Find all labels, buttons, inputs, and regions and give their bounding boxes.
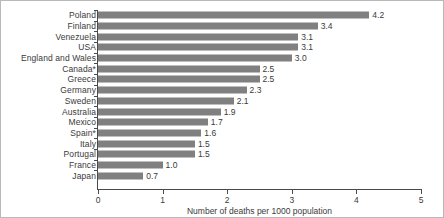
x-axis-tick xyxy=(356,190,357,194)
bar-row: Mexico1.7 xyxy=(1,117,444,128)
bar-track xyxy=(98,97,421,104)
bar xyxy=(98,12,369,19)
bar xyxy=(98,44,298,51)
x-axis-tick-label: 3 xyxy=(289,195,294,205)
bar-value-label: 1.7 xyxy=(208,117,223,127)
bar-track xyxy=(98,55,421,62)
bar-track xyxy=(98,129,421,136)
bar-row: Greece2.5 xyxy=(1,74,444,85)
bar-row: Germany2.3 xyxy=(1,85,444,96)
bar-value-label: 3.0 xyxy=(292,53,307,63)
bar-value-label: 3.4 xyxy=(318,21,333,31)
category-label: Japan xyxy=(72,171,96,181)
category-label: Canada* xyxy=(62,64,96,74)
bar xyxy=(98,172,143,179)
bar-row: Spain*1.6 xyxy=(1,128,444,139)
bar-row: Italy1.5 xyxy=(1,138,444,149)
category-label: Australia xyxy=(62,107,96,117)
category-label: Portugal xyxy=(64,149,96,159)
category-label: Sweden xyxy=(65,96,96,106)
bar-value-label: 1.6 xyxy=(201,128,216,138)
x-axis-title: Number of deaths per 1000 population xyxy=(98,206,421,216)
bar-row: Japan0.7 xyxy=(1,170,444,181)
category-label: Greece xyxy=(68,74,96,84)
bar-row: Sweden2.1 xyxy=(1,96,444,107)
bar xyxy=(98,161,163,168)
category-label: France xyxy=(69,160,96,170)
bar-value-label: 2.5 xyxy=(260,64,275,74)
x-axis-tick-label: 0 xyxy=(96,195,101,205)
y-axis-line xyxy=(97,10,98,189)
bar-value-label: 0.7 xyxy=(143,171,158,181)
category-label: Germany xyxy=(60,85,96,95)
bar-row: Canada*2.5 xyxy=(1,63,444,74)
category-label: Mexico xyxy=(68,117,96,127)
bar xyxy=(98,87,247,94)
bar xyxy=(98,140,195,147)
category-label: Spain* xyxy=(70,128,96,138)
bar-value-label: 3.1 xyxy=(298,32,313,42)
bar-row: England and Wales3.0 xyxy=(1,53,444,64)
bar-track xyxy=(98,151,421,158)
bar-track xyxy=(98,119,421,126)
plot-area: Poland4.2Finland3.4Venezuela3.1USA3.1Eng… xyxy=(1,1,444,218)
bar-value-label: 1.9 xyxy=(221,107,236,117)
x-axis-tick xyxy=(163,190,164,194)
bar-value-label: 2.5 xyxy=(260,74,275,84)
bar xyxy=(98,33,298,40)
bar-row: Portugal1.5 xyxy=(1,149,444,160)
x-axis-tick-label: 4 xyxy=(354,195,359,205)
bar xyxy=(98,129,201,136)
bar xyxy=(98,97,234,104)
bar-value-label: 1.5 xyxy=(195,139,210,149)
bar-value-label: 1.0 xyxy=(163,160,178,170)
bar-value-label: 2.1 xyxy=(234,96,249,106)
bar-row: Venezuela3.1 xyxy=(1,31,444,42)
bar xyxy=(98,151,195,158)
bar-value-label: 3.1 xyxy=(298,42,313,52)
bar-track xyxy=(98,23,421,30)
bar-row: Poland4.2 xyxy=(1,10,444,21)
bar-value-label: 1.5 xyxy=(195,149,210,159)
x-axis-tick xyxy=(98,190,99,194)
bar-row: Australia1.9 xyxy=(1,106,444,117)
x-axis-tick xyxy=(227,190,228,194)
x-axis-tick xyxy=(292,190,293,194)
chart-figure: Poland4.2Finland3.4Venezuela3.1USA3.1Eng… xyxy=(0,0,444,218)
category-label: Italy xyxy=(80,139,96,149)
x-axis-tick-label: 2 xyxy=(225,195,230,205)
bar-value-label: 2.3 xyxy=(247,85,262,95)
category-label: Finland xyxy=(67,21,96,31)
category-label: Venezuela xyxy=(55,32,96,42)
x-axis-tick-label: 5 xyxy=(419,195,424,205)
bar-track xyxy=(98,140,421,147)
category-label: USA xyxy=(78,42,96,52)
bar-track xyxy=(98,161,421,168)
bar xyxy=(98,119,208,126)
bar-row: USA3.1 xyxy=(1,42,444,53)
bar xyxy=(98,76,260,83)
bar-track xyxy=(98,108,421,115)
bar xyxy=(98,55,292,62)
bar-row: Finland3.4 xyxy=(1,21,444,32)
bar-value-label: 4.2 xyxy=(369,10,384,20)
x-axis-tick xyxy=(421,190,422,194)
bar-track xyxy=(98,33,421,40)
x-axis-line xyxy=(97,189,422,190)
bar xyxy=(98,23,318,30)
category-label: Poland xyxy=(69,10,96,20)
x-axis-tick-label: 1 xyxy=(160,195,165,205)
category-label: England and Wales xyxy=(21,53,96,63)
bar xyxy=(98,108,221,115)
bar-track xyxy=(98,44,421,51)
bar-rows: Poland4.2Finland3.4Venezuela3.1USA3.1Eng… xyxy=(1,10,444,181)
bar-row: France1.0 xyxy=(1,160,444,171)
bar xyxy=(98,65,260,72)
